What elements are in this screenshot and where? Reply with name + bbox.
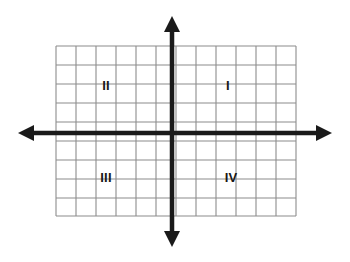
quadrant-1-label: I: [226, 79, 230, 92]
coordinate-plane-figure: I II III IV: [0, 0, 350, 262]
y-axis-arrow-down: [164, 231, 180, 247]
quadrant-4-label: IV: [225, 171, 238, 184]
x-axis-arrow-left: [18, 125, 34, 141]
x-axis: [18, 125, 332, 141]
quadrant-3-label: III: [100, 171, 111, 184]
y-axis-arrow-up: [164, 16, 180, 32]
quadrant-2-label: II: [102, 79, 110, 92]
coordinate-plane-svg: [0, 0, 350, 262]
x-axis-arrow-right: [316, 125, 332, 141]
